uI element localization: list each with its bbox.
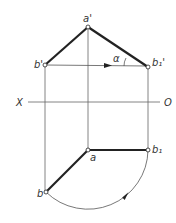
label-b1-prime: b₁' bbox=[152, 57, 165, 68]
label-alpha: α bbox=[113, 53, 120, 64]
label-a: a bbox=[90, 152, 96, 163]
label-b: b bbox=[37, 188, 43, 199]
label-x: X bbox=[15, 97, 24, 108]
projection-diagram: a' b' b₁' α X O a b₁ b bbox=[0, 0, 176, 223]
point-b1-prime bbox=[146, 65, 150, 69]
line-a-b-prime bbox=[45, 27, 88, 65]
point-b1 bbox=[146, 148, 150, 152]
label-o: O bbox=[164, 97, 172, 108]
line-a-b bbox=[46, 150, 88, 192]
label-b-prime: b' bbox=[34, 59, 43, 70]
rotation-arc bbox=[46, 150, 148, 209]
arrow-icon bbox=[104, 63, 112, 68]
point-a-prime bbox=[86, 25, 90, 29]
angle-arc bbox=[124, 58, 126, 66]
point-b bbox=[44, 190, 48, 194]
point-b-prime bbox=[43, 63, 47, 67]
label-a-prime: a' bbox=[83, 13, 92, 24]
label-b1: b₁ bbox=[152, 144, 162, 155]
horizontal-line bbox=[45, 65, 148, 66]
